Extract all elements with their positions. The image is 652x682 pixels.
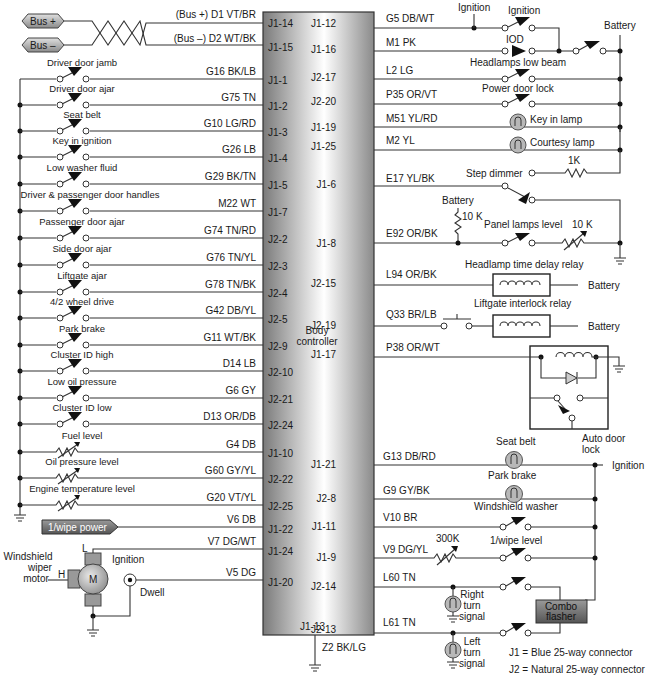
pin-label: J2-10 bbox=[268, 367, 293, 378]
motor-symbol: M bbox=[89, 574, 97, 585]
wire-code: E17 YL/BK bbox=[386, 173, 435, 184]
sensor-row: Oil pressure level G60 GY/YL J2-22 bbox=[18, 456, 294, 485]
pin-label: J2-22 bbox=[268, 474, 293, 485]
step-dimmer-label: Step dimmer bbox=[466, 168, 523, 179]
right-turn-label-2: turn bbox=[463, 600, 480, 611]
diode-icon bbox=[566, 372, 577, 384]
wipe-resistor-value: 300K bbox=[436, 533, 460, 544]
switch-label: Driver door ajar bbox=[49, 83, 114, 94]
pin-label: J1-1 bbox=[268, 75, 288, 86]
pin-label: J1-9 bbox=[317, 552, 337, 563]
pin-label: J2-17 bbox=[311, 72, 336, 83]
switch-row: Low oil pressure G6 GY J2-21 bbox=[18, 376, 294, 405]
variable-resistor-icon bbox=[535, 239, 620, 247]
pin-label: J1-3 bbox=[268, 127, 288, 138]
sensor-row: Fuel level G4 DB J1-10 bbox=[18, 430, 294, 459]
wire-code: V5 DG bbox=[226, 567, 256, 578]
wiper-motor-label-2: wiper bbox=[27, 562, 53, 573]
wire-code: L2 LG bbox=[386, 65, 413, 76]
pin-label: J1-16 bbox=[311, 44, 336, 55]
sensor-label: Oil pressure level bbox=[45, 456, 118, 467]
switch-row: Liftgate ajar G78 TN/BK J2-4 bbox=[18, 270, 288, 299]
left-switch-list: Driver door jamb G16 BK/LB J1-1 Driver d… bbox=[18, 57, 294, 431]
wire-code: G6 GY bbox=[225, 385, 256, 396]
iod-label: IOD bbox=[506, 34, 524, 45]
switch-row: Cluster ID high D14 LB J2-10 bbox=[18, 349, 294, 378]
high-speed-label: H bbox=[58, 569, 65, 580]
battery-label: Battery bbox=[442, 195, 474, 206]
wire-code: G16 BK/LB bbox=[206, 66, 256, 77]
wire-code: G75 TN bbox=[221, 92, 256, 103]
wire-code: G11 WT/BK bbox=[203, 332, 256, 343]
bus-plus-label: Bus + bbox=[30, 16, 56, 27]
data-bus: Bus + Bus – (Bus +) D1 VT/BR (Bus –) D2 … bbox=[22, 9, 293, 53]
wire-code: V7 DG/WT bbox=[208, 536, 256, 547]
wire-code: L94 OR/BK bbox=[386, 269, 437, 280]
wire-code: M2 YL bbox=[386, 135, 415, 146]
wire-code: G78 TN/BK bbox=[205, 279, 256, 290]
switch-row: Driver door ajar G75 TN J1-2 bbox=[18, 83, 288, 112]
wire-code: G29 BK/TN bbox=[205, 171, 256, 182]
pin-j1-14: J1-14 bbox=[268, 18, 293, 29]
pin-label: J1-20 bbox=[268, 577, 293, 588]
variable-resistor-icon bbox=[374, 554, 500, 562]
switch-label: Park brake bbox=[59, 323, 105, 334]
relay-coil-icon bbox=[500, 322, 540, 326]
switch-row: Low washer fluid G29 BK/TN J1-5 bbox=[18, 162, 288, 191]
power-door-lock-label: Power door lock bbox=[482, 83, 555, 94]
relay-coil-icon bbox=[500, 281, 540, 285]
wire-code: Q33 BR/LB bbox=[386, 309, 437, 320]
ground-icon bbox=[596, 357, 625, 372]
switch-label: 4/2 wheel drive bbox=[50, 296, 114, 307]
ground-icon bbox=[447, 612, 459, 622]
right-turn-label: Right bbox=[460, 589, 484, 600]
ignition-tap-label: Ignition bbox=[458, 2, 490, 13]
left-turn-label-3: signal bbox=[459, 658, 485, 669]
wire-code: L60 TN bbox=[383, 572, 416, 583]
pin-label: J1-5 bbox=[268, 180, 288, 191]
relay-box bbox=[493, 274, 550, 296]
pin-label: J2-14 bbox=[311, 581, 336, 592]
sensor-label: Engine temperature level bbox=[29, 483, 135, 494]
ground-icon bbox=[447, 658, 459, 668]
pin-label: J2-24 bbox=[268, 420, 293, 431]
pin-label: J2-8 bbox=[317, 493, 337, 504]
pin-label: J2-21 bbox=[268, 394, 293, 405]
ignition-label: Ignition bbox=[612, 460, 644, 471]
combo-flasher-label-2: flasher bbox=[546, 611, 577, 622]
connector-legend: J1 = Blue 25-way connector J2 = Natural … bbox=[509, 647, 646, 675]
pin-j1-15: J1-15 bbox=[268, 42, 293, 53]
wire-code: G26 LB bbox=[222, 144, 256, 155]
pullup-value: 10 K bbox=[462, 211, 483, 222]
switch-label: Low oil pressure bbox=[47, 376, 116, 387]
pullup-resistor-icon bbox=[455, 208, 461, 243]
wire-code: G10 LG/RD bbox=[204, 118, 256, 129]
wire-code: G13 DB/RD bbox=[383, 451, 436, 462]
dwell-label: Dwell bbox=[140, 587, 164, 598]
seat-belt-label: Seat belt bbox=[496, 436, 536, 447]
switch-row: Cluster ID low D13 OR/DB J2-24 bbox=[18, 402, 294, 431]
ground-icon bbox=[87, 616, 99, 636]
wire-code: P38 OR/WT bbox=[386, 342, 440, 353]
key-in-lamp-label: Key in lamp bbox=[530, 114, 583, 125]
wire-code: D14 LB bbox=[223, 358, 257, 369]
ignition-label: Ignition bbox=[112, 554, 144, 565]
ground-icon bbox=[14, 515, 26, 521]
panel-resistor-value: 10 K bbox=[572, 219, 593, 230]
pin-label: J1-22 bbox=[268, 524, 293, 535]
wire-code: G42 DB/YL bbox=[205, 305, 256, 316]
switch-label: Key in ignition bbox=[52, 135, 111, 146]
relay-box bbox=[493, 315, 550, 337]
low-speed-label: L bbox=[82, 543, 88, 554]
battery-label: Battery bbox=[588, 321, 620, 332]
switch-label: Driver door jamb bbox=[47, 57, 117, 68]
switch-label: Low washer fluid bbox=[47, 162, 118, 173]
switch-label: Side door ajar bbox=[52, 243, 111, 254]
controller-label-2: controller bbox=[296, 336, 338, 347]
switch-row: Side door ajar G76 TN/YL J2-3 bbox=[18, 243, 288, 272]
pin-label: J2-4 bbox=[268, 288, 288, 299]
pushbutton-icon bbox=[443, 314, 471, 319]
switch-row: Key in ignition G26 LB J1-4 bbox=[18, 135, 288, 164]
wire-code: G5 DB/WT bbox=[386, 13, 434, 24]
wire-code: G60 GY/YL bbox=[205, 465, 257, 476]
